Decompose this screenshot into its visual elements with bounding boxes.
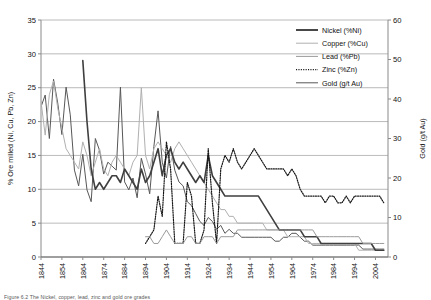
x-tick-label: 1994 (350, 263, 359, 279)
y2-tick-label: 50 (393, 55, 401, 64)
y2-tick-label: 40 (393, 95, 401, 104)
y2-axis-title: Gold (g/t Au) (418, 118, 427, 158)
y2-tick-label: 30 (393, 134, 401, 143)
series-line-zinc-zn (146, 142, 384, 244)
y2-axis-ticks: 0102030405060 (388, 16, 401, 262)
series-line-lead-pb (146, 230, 384, 244)
legend-label: Gold (g/t Au) (322, 79, 362, 88)
x-tick-label: 2004 (371, 263, 380, 279)
y-tick-label: 30 (28, 50, 36, 59)
x-tick-label: 1944 (246, 263, 255, 279)
figure-caption: Figure 6.2 The Nickel, copper, lead, zin… (4, 294, 150, 300)
x-tick-label: 1874 (100, 263, 109, 279)
legend-label: Lead (%Pb) (322, 52, 360, 61)
y-tick-label: 5 (32, 219, 36, 228)
chart-canvas: 0510152025303501020304050601844185418641… (0, 0, 431, 300)
ore-grade-chart: 0510152025303501020304050601844185418641… (0, 0, 431, 300)
x-tick-label: 1984 (329, 263, 338, 279)
x-tick-label: 1934 (225, 263, 234, 279)
y-tick-label: 15 (28, 151, 36, 160)
y-tick-label: 20 (28, 117, 36, 126)
x-tick-label: 1914 (183, 263, 192, 279)
x-tick-label: 1854 (58, 263, 67, 279)
series-line-copper-cu (41, 81, 384, 250)
x-tick-label: 1954 (267, 263, 276, 279)
x-tick-label: 1964 (288, 263, 297, 279)
legend-label: Zinc (%Zn) (322, 65, 357, 74)
x-tick-label: 1904 (162, 263, 171, 279)
x-tick-label: 1864 (79, 263, 88, 279)
x-tick-label: 1884 (120, 263, 129, 279)
y-tick-label: 25 (28, 83, 36, 92)
y2-tick-label: 10 (393, 213, 401, 222)
series-line-gold-g-t-au (41, 79, 384, 249)
y-tick-label: 10 (28, 185, 36, 194)
y-tick-label: 0 (32, 253, 36, 262)
x-tick-label: 1844 (37, 263, 46, 279)
legend-label: Copper (%Cu) (322, 39, 368, 48)
x-tick-label: 1974 (309, 263, 318, 279)
y2-tick-label: 20 (393, 174, 401, 183)
x-axis-ticks: 1844185418641874188418941904191419241934… (37, 257, 380, 279)
y2-tick-label: 60 (393, 16, 401, 25)
y-axis-title: % Ore milled (Ni, Cu, Pb, Zn) (6, 92, 15, 185)
y-tick-label: 35 (28, 16, 36, 25)
y-axis-ticks: 05101520253035 (28, 16, 41, 262)
legend-label: Nickel (%Ni) (322, 26, 362, 35)
y2-tick-label: 0 (393, 253, 397, 262)
x-tick-label: 1924 (204, 263, 213, 279)
chart-legend: Nickel (%Ni)Copper (%Cu)Lead (%Pb)Zinc (… (296, 26, 368, 88)
x-tick-label: 1894 (141, 263, 150, 279)
